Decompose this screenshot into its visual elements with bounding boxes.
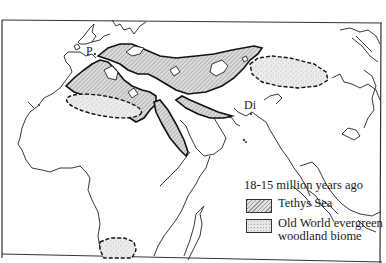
map-legend: 18-15 million years ago Tethys Sea Old W… <box>246 178 386 243</box>
tethys-red-sea-arm <box>154 100 188 156</box>
legend-item-tethys-sea: Tethys Sea <box>246 197 386 213</box>
legend-title: 18-15 million years ago <box>244 178 386 193</box>
stipple-swatch-icon <box>246 219 272 233</box>
legend-label-woodland-line2: woodland biome <box>278 229 362 243</box>
point-marker-p <box>94 53 96 55</box>
legend-label-woodland: Old World evergreen woodland biome <box>278 217 383 243</box>
map-label-di: Di <box>244 98 256 113</box>
legend-item-woodland-biome: Old World evergreen woodland biome <box>246 217 386 243</box>
tethys-gulf-arm <box>176 96 232 118</box>
woodland-biome-central-asia <box>250 56 328 88</box>
map-label-p: P <box>86 44 93 59</box>
hatch-swatch-icon <box>246 199 272 213</box>
legend-label-tethys: Tethys Sea <box>278 197 332 210</box>
woodland-biome-south-africa <box>100 238 136 258</box>
legend-label-woodland-line1: Old World evergreen <box>278 216 383 230</box>
point-marker-di <box>250 113 252 115</box>
